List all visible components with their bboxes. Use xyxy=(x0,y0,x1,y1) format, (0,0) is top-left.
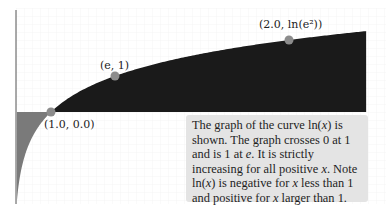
caption-text: larger than 1. xyxy=(278,191,347,205)
label-point-1-0: (1.0, 0.0) xyxy=(44,118,95,131)
caption-text: . Note xyxy=(327,162,357,176)
caption-math: ln( xyxy=(308,118,322,132)
point-1-0 xyxy=(47,108,56,117)
point-e2-2 xyxy=(284,36,293,45)
caption-box: The graph of the curve ln(x) is shown. T… xyxy=(186,115,368,202)
caption-math: ln( xyxy=(192,176,206,190)
caption-text: is negative for xyxy=(215,176,292,190)
caption-text: The graph of the curve xyxy=(192,118,308,132)
label-point-e2-2: (2.0, ln(e²)) xyxy=(259,18,322,31)
point-e-1 xyxy=(111,72,120,81)
label-point-e-1: (e, 1) xyxy=(100,59,129,72)
